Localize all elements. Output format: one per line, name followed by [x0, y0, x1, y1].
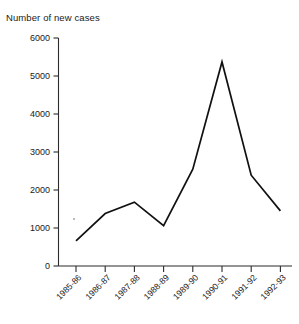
x-tick-label: 1989-90 — [171, 272, 201, 302]
y-tick-label: 0 — [45, 261, 50, 271]
y-axis-tick-labels: 0100020003000400050006000 — [30, 33, 50, 271]
y-tick-label: 2000 — [30, 185, 50, 195]
x-tick-label: 1987-88 — [112, 272, 142, 302]
x-axis-tick-marks — [76, 266, 280, 272]
x-axis-tick-labels: 1985-861986-871987-881988-891989-901990-… — [54, 272, 288, 302]
data-series-line — [76, 62, 280, 241]
chart-container: Number of new cases 01000200030004000500… — [0, 0, 299, 324]
y-tick-label: 4000 — [30, 109, 50, 119]
x-tick-label: 1992-93 — [258, 272, 288, 302]
artifact-speck — [73, 218, 75, 220]
x-tick-label: 1985-86 — [54, 272, 84, 302]
x-tick-label: 1991-92 — [229, 272, 259, 302]
x-tick-label: 1988-89 — [142, 272, 172, 302]
line-chart-plot: 0100020003000400050006000 1985-861986-87… — [0, 0, 299, 324]
x-tick-label: 1986-87 — [83, 272, 113, 302]
y-axis-tick-marks — [54, 38, 59, 266]
x-tick-label: 1990-91 — [200, 272, 230, 302]
y-tick-label: 5000 — [30, 71, 50, 81]
y-tick-label: 3000 — [30, 147, 50, 157]
y-tick-label: 6000 — [30, 33, 50, 43]
y-tick-label: 1000 — [30, 223, 50, 233]
